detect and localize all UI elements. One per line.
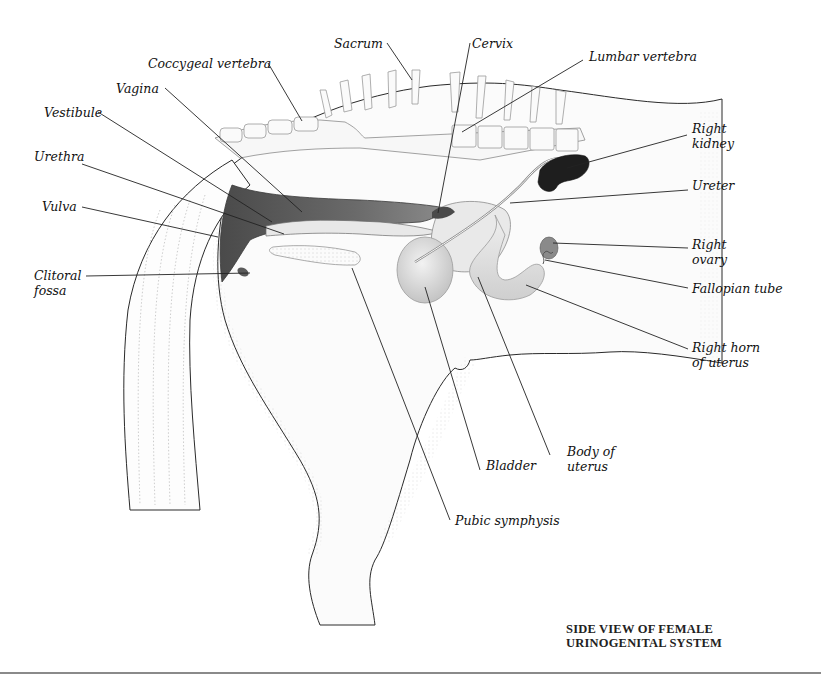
- label-vagina: Vagina: [116, 81, 159, 96]
- diagram-canvas: Coccygeal vertebra Sacrum Cervix Lumbar …: [0, 0, 821, 690]
- title-line-1: SIDE VIEW OF FEMALE: [566, 622, 713, 636]
- label-urethra: Urethra: [34, 149, 84, 164]
- label-bladder: Bladder: [486, 458, 536, 473]
- label-pubic-symphysis: Pubic symphysis: [455, 513, 560, 528]
- label-right-ovary: Right ovary: [692, 237, 727, 267]
- label-body-of-uterus: Body of uterus: [567, 444, 615, 474]
- body-outline: [218, 83, 722, 625]
- label-right-horn-of-uterus: Right horn of uterus: [692, 340, 760, 370]
- label-clitoral-fossa: Clitoral fossa: [34, 268, 82, 298]
- diagram-title: SIDE VIEW OF FEMALE URINOGENITAL SYSTEM: [566, 622, 722, 650]
- label-vulva: Vulva: [42, 199, 77, 214]
- label-right-kidney: Right kidney: [692, 121, 734, 151]
- bottom-divider: [0, 672, 821, 674]
- label-lumbar-vertebra: Lumbar vertebra: [589, 49, 697, 64]
- label-ureter: Ureter: [692, 178, 734, 193]
- title-line-2: URINOGENITAL SYSTEM: [566, 636, 722, 650]
- label-vestibule: Vestibule: [44, 105, 102, 120]
- label-sacrum: Sacrum: [334, 36, 383, 51]
- label-coccygeal-vertebra: Coccygeal vertebra: [148, 56, 271, 71]
- label-fallopian-tube: Fallopian tube: [692, 281, 783, 296]
- label-cervix: Cervix: [472, 36, 513, 51]
